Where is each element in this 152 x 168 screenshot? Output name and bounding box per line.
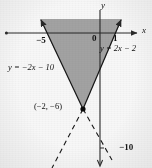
tick-label-y-minus-ten: −10 <box>119 143 133 152</box>
tick-label-origin: 0 <box>92 34 97 43</box>
equation-label-left-line: y = −2x − 10 <box>8 63 54 72</box>
vertex-coordinate-label: (−2, −6) <box>34 102 62 111</box>
tick-label-x-one: 1 <box>113 34 118 43</box>
y-axis-label: y <box>101 1 105 10</box>
equation-label-right-line: y = 2x − 2 <box>100 44 136 53</box>
x-axis-label: x <box>142 26 146 35</box>
vertex-point <box>80 106 85 111</box>
tick-label-x-minus-five: −5 <box>36 36 46 45</box>
math-graph-figure: x y 0 1 −5 −10 y = 2x − 2 y = −2x − 10 (… <box>0 0 152 168</box>
